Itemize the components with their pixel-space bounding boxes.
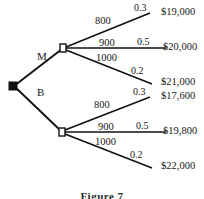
branch-quantity-m-900: 900 <box>99 38 115 49</box>
probability-m-900: 0.5 <box>137 37 150 47</box>
probability-b-1000: 0.2 <box>130 150 143 160</box>
chance-node-b <box>59 128 65 136</box>
branch-quantity-b-900: 900 <box>98 122 114 133</box>
decision-tree-figure: M B 800 900 1000 0.3 0.5 0.2 $19,000 $20… <box>0 0 204 199</box>
figure-caption: Figure 7 <box>0 190 204 199</box>
chance-node-m <box>60 44 66 52</box>
probability-b-900: 0.5 <box>136 121 149 131</box>
probability-m-1000: 0.2 <box>131 66 144 76</box>
probability-b-800: 0.3 <box>133 87 146 97</box>
root-decision-node <box>9 82 17 90</box>
branch-quantity-m-800: 800 <box>95 16 111 27</box>
decision-label-m: M <box>37 51 47 62</box>
payoff-m-1000: $21,000 <box>161 77 195 88</box>
payoff-m-900: $20,000 <box>163 42 197 53</box>
branch-quantity-b-800: 800 <box>94 100 110 111</box>
payoff-m-800: $19,000 <box>161 7 195 18</box>
payoff-b-900: $19,800 <box>163 126 197 137</box>
payoff-b-1000: $22,000 <box>161 161 195 172</box>
decision-label-b: B <box>37 87 44 98</box>
probability-m-800: 0.3 <box>134 3 147 13</box>
payoff-b-800: $17,600 <box>161 91 195 102</box>
branch-quantity-b-1000: 1000 <box>95 137 116 148</box>
branch-quantity-m-1000: 1000 <box>96 53 117 64</box>
